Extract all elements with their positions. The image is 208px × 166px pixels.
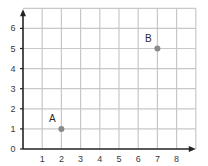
x-tick-label: 8 (174, 154, 179, 164)
y-axis-arrow-icon (20, 9, 26, 16)
grid-lines (23, 8, 196, 149)
point-label-a: A (49, 113, 56, 124)
x-axis-arrow-icon (189, 146, 196, 152)
axes (20, 9, 196, 152)
y-axis-tick-labels: 0123456 (10, 23, 23, 154)
data-point-a (58, 126, 64, 132)
point-label-b: B (145, 33, 152, 44)
y-tick-label: 6 (10, 23, 15, 33)
x-tick-label: 3 (78, 154, 83, 164)
coordinate-grid-chart: 12345678 0123456 AB (0, 0, 208, 166)
data-point-b (154, 46, 160, 52)
x-axis-tick-labels: 12345678 (40, 154, 179, 164)
x-tick-label: 2 (59, 154, 64, 164)
x-tick-label: 4 (97, 154, 102, 164)
x-tick-label: 7 (155, 154, 160, 164)
y-tick-label: 1 (10, 124, 15, 134)
y-tick-label: 4 (10, 64, 15, 74)
x-tick-label: 1 (40, 154, 45, 164)
data-points: AB (49, 33, 160, 132)
y-tick-label: 3 (10, 84, 15, 94)
x-tick-label: 5 (116, 154, 121, 164)
y-tick-label: 2 (10, 104, 15, 114)
x-tick-label: 6 (136, 154, 141, 164)
y-tick-label: 5 (10, 44, 15, 54)
y-tick-label: 0 (10, 144, 15, 154)
